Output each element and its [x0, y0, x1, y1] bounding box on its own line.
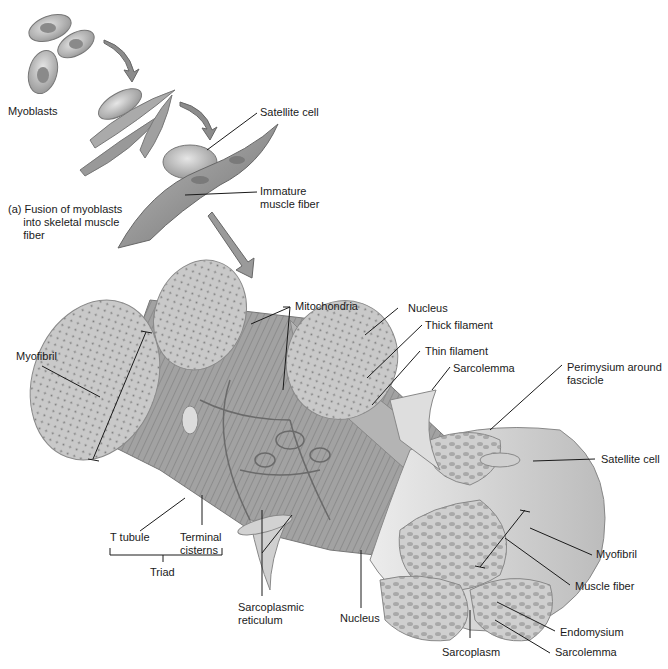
- label-thick-filament: Thick filament: [425, 319, 493, 332]
- caption-part-a: (a) Fusion of myoblasts into skeletal mu…: [8, 203, 122, 242]
- label-myoblasts: Myoblasts: [8, 105, 58, 118]
- myoblast-cells: [24, 9, 99, 97]
- illustration: [0, 0, 668, 669]
- arrow-icon: [180, 102, 217, 140]
- label-immature-muscle-fiber: Immature muscle fiber: [260, 185, 319, 211]
- label-myofibril-left: Myofibril: [16, 350, 57, 363]
- label-myofibril-right: Myofibril: [596, 548, 637, 561]
- label-sarcoplasmic-reticulum: Sarcoplasmic reticulum: [238, 601, 304, 627]
- label-satellite-cell-b: Satellite cell: [601, 453, 660, 466]
- label-nucleus-top: Nucleus: [408, 302, 448, 315]
- label-endomysium: Endomysium: [560, 626, 624, 639]
- label-muscle-fiber: Muscle fiber: [575, 580, 634, 593]
- mitochondrion-shape: [182, 406, 198, 434]
- label-t-tubule: T tubule: [110, 531, 150, 544]
- aligning-myoblasts: [80, 82, 175, 176]
- label-perimysium: Perimysium around fascicle: [567, 361, 662, 387]
- muscle-fiber-diagram: Myoblasts Satellite cell Immature muscle…: [0, 0, 668, 669]
- label-terminal-cisterns: Terminal cisterns: [180, 531, 222, 557]
- immature-muscle-fiber: [118, 124, 278, 248]
- label-triad: Triad: [150, 566, 175, 579]
- label-mitochondria: Mitochondria: [295, 300, 358, 313]
- label-sarcoplasm: Sarcoplasm: [442, 646, 500, 659]
- label-sarcolemma-bottom: Sarcolemma: [555, 646, 617, 659]
- label-satellite-cell-a: Satellite cell: [260, 106, 319, 119]
- arrow-icon: [104, 40, 139, 82]
- label-sarcolemma-top: Sarcolemma: [453, 362, 515, 375]
- label-thin-filament: Thin filament: [425, 345, 488, 358]
- label-nucleus-bottom: Nucleus: [340, 612, 380, 625]
